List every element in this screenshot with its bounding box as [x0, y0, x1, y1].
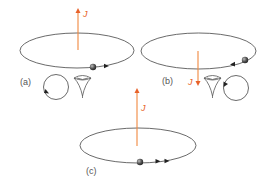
eye-icon: [74, 76, 91, 99]
j-label-c: J: [140, 103, 146, 113]
orbit-a: [20, 33, 134, 68]
arrowhead-up-icon: [135, 88, 140, 93]
orbit-arrow-right-icon: [165, 159, 170, 164]
rotation-circle-a: [44, 75, 69, 100]
orbit-arrow-right-icon: [104, 64, 109, 68]
panel-label-b: (b): [162, 76, 173, 86]
diagram-canvas: J (a) J (b) J: [0, 0, 270, 185]
eye-icon: [204, 76, 221, 99]
orbit-arrow-right-icon: [156, 159, 161, 164]
j-label-b: J: [187, 77, 193, 87]
arrowhead-down-icon: [196, 81, 201, 86]
orbit-c: [80, 128, 196, 163]
arrowhead-up-icon: [76, 8, 81, 13]
panel-c: J (c): [80, 88, 196, 176]
particle-b: [242, 57, 248, 63]
particle-a: [90, 64, 96, 70]
rotation-arrow-ccw-icon: [44, 89, 49, 94]
panel-b: J (b): [141, 33, 256, 101]
panel-label-a: (a): [20, 77, 31, 87]
rotation-circle-b: [224, 76, 249, 101]
panel-label-c: (c): [86, 166, 97, 176]
particle-c: [137, 159, 143, 165]
rotation-arrow-cw-icon: [224, 82, 229, 88]
j-label-a: J: [82, 9, 88, 19]
panel-a: J (a): [20, 8, 134, 100]
